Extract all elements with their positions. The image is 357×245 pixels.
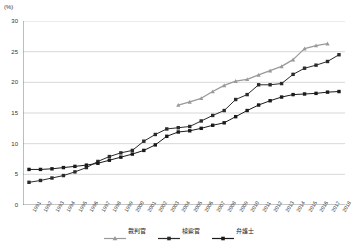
data-point-marker — [62, 174, 65, 177]
data-point-marker — [337, 90, 340, 93]
data-point-marker — [303, 92, 306, 95]
data-point-marker — [234, 115, 237, 118]
data-point-marker — [131, 149, 134, 152]
data-point-marker — [200, 119, 203, 122]
data-point-marker — [280, 95, 283, 98]
data-point-marker — [142, 149, 145, 152]
data-point-marker — [280, 82, 283, 85]
data-point-marker — [154, 143, 157, 146]
data-point-marker — [268, 83, 271, 86]
data-point-marker — [50, 167, 53, 170]
y-axis-tick-label: 30 — [0, 18, 18, 24]
legend-item-3[interactable]: 弁護士 — [212, 228, 254, 235]
data-point-marker — [257, 103, 260, 106]
y-axis-tick-label: 10 — [0, 141, 18, 147]
y-axis-unit-label: (%) — [4, 3, 13, 11]
data-point-marker — [108, 155, 111, 158]
legend-label: 弁護士 — [236, 228, 254, 235]
data-point-marker — [73, 170, 76, 173]
y-axis-tick-label: 20 — [0, 79, 18, 85]
data-point-marker — [222, 121, 225, 124]
legend-item-1[interactable]: 裁判官 — [104, 228, 146, 235]
y-axis-tick-label: 25 — [0, 49, 18, 55]
data-point-marker — [50, 176, 53, 179]
data-point-marker — [291, 73, 294, 76]
legend-label: 検察官 — [182, 228, 200, 235]
data-point-marker — [326, 60, 329, 63]
data-point-marker — [268, 99, 271, 102]
data-point-marker — [211, 114, 214, 117]
plot-area — [23, 21, 345, 205]
data-point-marker — [85, 163, 88, 166]
data-point-marker — [257, 83, 260, 86]
legend-marker-icon — [104, 228, 126, 235]
data-point-marker — [188, 129, 191, 132]
data-point-marker — [62, 166, 65, 169]
data-point-marker — [73, 165, 76, 168]
data-point-marker — [39, 179, 42, 182]
data-point-marker — [131, 152, 134, 155]
chart-container: (%) 051015202530 19911992199319941995199… — [0, 0, 357, 245]
data-point-marker — [154, 133, 157, 136]
data-point-marker — [314, 63, 317, 66]
data-point-marker — [303, 67, 306, 70]
legend-label: 裁判官 — [128, 228, 146, 235]
series-line — [178, 44, 327, 105]
data-point-marker — [177, 130, 180, 133]
data-point-marker — [211, 124, 214, 127]
data-point-marker — [119, 155, 122, 158]
data-point-marker — [177, 126, 180, 129]
legend-marker-icon — [212, 228, 234, 235]
data-point-marker — [234, 98, 237, 101]
data-point-marker — [245, 109, 248, 112]
legend-item-2[interactable]: 検察官 — [158, 228, 200, 235]
data-point-marker — [337, 53, 340, 56]
data-point-marker — [119, 151, 122, 154]
data-point-marker — [245, 93, 248, 96]
data-point-marker — [108, 159, 111, 162]
data-point-marker — [200, 127, 203, 130]
data-point-marker — [188, 125, 191, 128]
data-point-marker — [291, 93, 294, 96]
data-point-marker — [165, 135, 168, 138]
data-point-marker — [27, 181, 30, 184]
y-axis-tick-label: 15 — [0, 110, 18, 116]
chart-legend: 裁判官検察官弁護士 — [0, 228, 357, 235]
series-2 — [27, 53, 340, 184]
series-3 — [27, 90, 340, 171]
data-point-marker — [314, 92, 317, 95]
plot-svg — [23, 21, 345, 205]
data-point-marker — [27, 168, 30, 171]
data-point-marker — [326, 90, 329, 93]
data-point-marker — [222, 109, 225, 112]
y-axis-tick-label: 0 — [0, 202, 18, 208]
y-axis-tick-label: 5 — [0, 171, 18, 177]
data-point-marker — [39, 168, 42, 171]
data-point-marker — [96, 162, 99, 165]
data-point-marker — [165, 127, 168, 130]
legend-marker-icon — [158, 228, 180, 235]
data-point-marker — [142, 140, 145, 143]
